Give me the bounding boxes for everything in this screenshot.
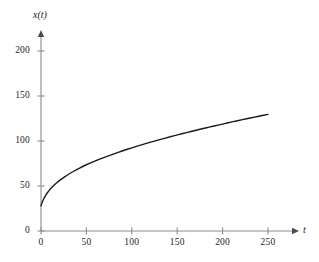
x-tick-label-150: 150	[163, 237, 191, 247]
data-series-curve	[41, 114, 268, 205]
x-tick-label-50: 50	[72, 237, 100, 247]
y-tick-label-50: 50	[2, 180, 30, 190]
plot-canvas	[0, 0, 319, 262]
x-axis-arrowhead	[292, 228, 299, 234]
x-tick-label-250: 250	[254, 237, 282, 247]
x-tick-label-100: 100	[118, 237, 146, 247]
y-tick-label-100: 100	[2, 135, 30, 145]
y-tick-label-0: 0	[2, 225, 30, 235]
x-tick-label-0: 0	[27, 237, 55, 247]
x-tick-label-200: 200	[209, 237, 237, 247]
axes-group	[38, 30, 299, 234]
y-tick-label-200: 200	[2, 45, 30, 55]
y-tick-label-150: 150	[2, 90, 30, 100]
y-axis-arrowhead	[38, 30, 44, 37]
x-axis-label: t	[303, 224, 306, 235]
chart-figure: 200 150 100 50 0 0 50 100 150 200 250 x(…	[0, 0, 319, 262]
y-axis-label: x(t)	[33, 9, 47, 20]
